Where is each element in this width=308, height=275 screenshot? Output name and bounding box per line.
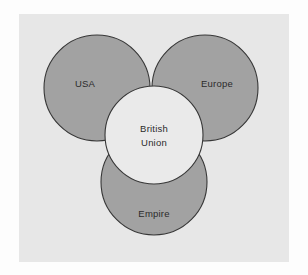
venn-label-british-union-line1: British bbox=[140, 123, 168, 134]
venn-label-usa: USA bbox=[75, 78, 96, 89]
venn-label-british-union-line2: Union bbox=[141, 137, 167, 148]
figure-root: USA Europe Empire British Union bbox=[0, 0, 308, 275]
venn-label-europe: Europe bbox=[201, 78, 233, 89]
venn-diagram-svg: USA Europe Empire British Union bbox=[19, 14, 289, 262]
venn-label-empire: Empire bbox=[138, 208, 169, 219]
venn-diagram-panel: USA Europe Empire British Union bbox=[19, 14, 289, 262]
venn-circle-british-union[interactable] bbox=[105, 86, 203, 184]
